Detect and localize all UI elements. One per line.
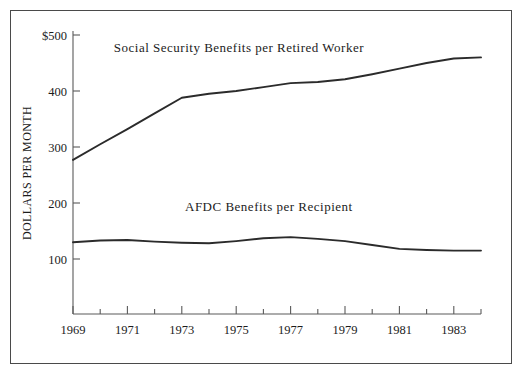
x-tick-label-1979: 1979	[333, 323, 358, 337]
series-annotations: Social Security Benefits per Retired Wor…	[114, 40, 364, 215]
y-axis-tick-labels: 100200300400$500	[42, 29, 67, 267]
series-line-social-security	[73, 57, 481, 159]
chart-figure-frame: 100200300400$500 19691971197319751977197…	[10, 10, 512, 364]
x-tick-label-1983: 1983	[441, 323, 466, 337]
y-tick-label-300: 300	[48, 141, 67, 155]
series-annotation-afdc: AFDC Benefits per Recipient	[185, 199, 353, 214]
x-tick-label-1969: 1969	[61, 323, 86, 337]
y-axis-title: DOLLARS PER MONTH	[20, 106, 34, 240]
x-tick-label-1971: 1971	[115, 323, 140, 337]
x-axis-ticks	[73, 306, 481, 314]
y-tick-label-400: 400	[48, 85, 67, 99]
line-chart-canvas: 100200300400$500 19691971197319751977197…	[11, 11, 513, 365]
series-line-afdc	[73, 237, 481, 250]
x-tick-label-1981: 1981	[387, 323, 412, 337]
y-tick-label-200: 200	[48, 197, 67, 211]
data-series-group	[73, 57, 481, 250]
y-tick-label-500: $500	[42, 29, 67, 43]
y-tick-label-100: 100	[48, 253, 67, 267]
x-tick-label-1975: 1975	[224, 323, 249, 337]
y-axis-ticks	[73, 35, 80, 259]
x-axis-tick-labels: 19691971197319751977197919811983	[61, 323, 467, 337]
series-annotation-social-security: Social Security Benefits per Retired Wor…	[114, 40, 364, 55]
x-tick-label-1973: 1973	[169, 323, 194, 337]
x-tick-label-1977: 1977	[278, 323, 303, 337]
